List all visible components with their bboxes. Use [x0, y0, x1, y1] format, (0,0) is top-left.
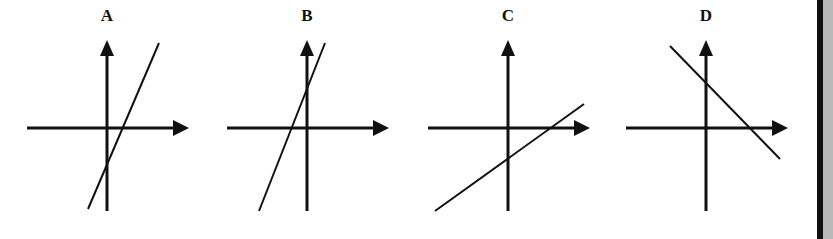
panel-label-c: C: [488, 6, 528, 26]
y-axis-arrow-icon-a: [100, 40, 114, 56]
x-axis-arrow-icon-d: [772, 120, 788, 136]
x-axis-arrow-icon-b: [373, 120, 389, 136]
panel-label-d: D: [686, 6, 726, 26]
y-axis-arrow-icon-d: [699, 40, 713, 56]
x-axis-arrow-icon-a: [173, 120, 189, 136]
graph-line-d: [670, 46, 780, 159]
panel-label-a: A: [87, 6, 127, 26]
graphs-canvas: [0, 0, 833, 239]
x-axis-arrow-icon-c: [574, 120, 590, 136]
y-axis-arrow-icon-c: [501, 40, 515, 56]
panel-label-b: B: [287, 6, 327, 26]
side-band: [823, 0, 833, 239]
y-axis-arrow-icon-b: [300, 40, 314, 56]
graph-line-a: [88, 43, 159, 209]
